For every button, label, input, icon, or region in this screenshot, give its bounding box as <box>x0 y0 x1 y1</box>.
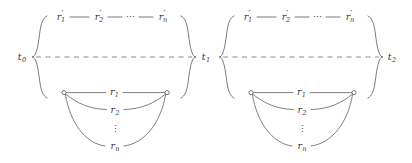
upper-label-r1-prime-left: r′1 <box>57 8 65 23</box>
upper-ellipsis-right: ⋯ <box>313 12 322 22</box>
diagram-svg: r′1 r′2 ⋯ r′n r1 r2 ⋮ rn t0 <box>0 0 412 163</box>
upper-ellipsis-left: ⋯ <box>126 12 135 22</box>
lower-path-rnb-left <box>124 95 166 146</box>
lower-ellipsis-right: ⋮ <box>298 124 307 134</box>
time-label-t1: t1 <box>202 51 210 64</box>
upper-label-r1-prime-right: r′1 <box>244 8 252 23</box>
lower-label-r2-left: r2 <box>110 104 119 117</box>
lower-label-r1-left: r1 <box>110 86 119 99</box>
lower-ellipsis-left: ⋮ <box>111 124 120 134</box>
group-right: r′1 r′2 ⋯ r′n r1 r2 ⋮ rn t1 t2 <box>202 8 396 153</box>
group-left: r′1 r′2 ⋯ r′n r1 r2 ⋮ rn t0 <box>18 8 196 153</box>
lower-label-rn-left: rn <box>110 140 119 153</box>
lower-label-r1-right: r1 <box>297 86 306 99</box>
upper-label-r2-prime-left: r′2 <box>95 8 103 23</box>
time-label-t2: t2 <box>388 51 396 64</box>
lower-label-rn-right: rn <box>297 140 306 153</box>
node-circle-start-right[interactable] <box>249 91 253 95</box>
time-label-t0: t0 <box>18 51 26 64</box>
upper-label-r2-prime-right: r′2 <box>282 8 290 23</box>
lower-path-r2-right <box>253 94 294 110</box>
lower-path-rn-left <box>66 95 106 146</box>
node-circle-end-left[interactable] <box>165 91 169 95</box>
lower-path-r2b-left <box>124 94 166 110</box>
lower-path-rnb-right <box>311 95 353 146</box>
lower-label-r2-right: r2 <box>297 104 306 117</box>
upper-label-rn-prime-right: r′n <box>346 8 354 23</box>
upper-label-rn-prime-left: r′n <box>159 8 167 23</box>
lower-path-r2-left <box>66 94 107 110</box>
node-circle-end-right[interactable] <box>352 91 356 95</box>
diagram-canvas: r′1 r′2 ⋯ r′n r1 r2 ⋮ rn t0 <box>0 0 412 163</box>
lower-path-r2b-right <box>311 94 353 110</box>
lower-path-rn-right <box>253 95 293 146</box>
node-circle-start-left[interactable] <box>62 91 66 95</box>
